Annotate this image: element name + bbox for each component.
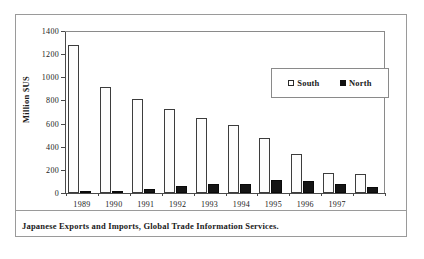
bar-north-1996 [303,181,314,193]
x-tick-mark [289,193,290,196]
x-tick-label-1994: 1994 [233,200,250,209]
y-tick-mark [61,77,65,78]
x-tick-label-1989: 1989 [73,200,90,209]
chart-legend: South North [271,68,389,98]
x-tick-mark [226,193,227,196]
bar-group-1996 [289,31,321,193]
bar-group-1995 [257,31,289,193]
bar-group-1989 [66,31,98,193]
bar-group-1993 [194,31,226,193]
x-tick-mark [321,193,322,196]
x-tick-mark [257,193,258,196]
x-tick-mark [130,193,131,196]
y-tick-label: 600 [46,119,59,128]
bar-group-1997 [321,31,353,193]
x-tick-label-1997: 1997 [329,200,346,209]
y-tick-label: 1400 [42,27,59,36]
y-tick-label: 200 [46,165,59,174]
x-tick-label-1992: 1992 [169,200,186,209]
bar-group-unlabeled [353,31,385,193]
x-tick-mark [353,193,354,196]
figure-caption: Japanese Exports and Imports, Global Tra… [22,221,279,231]
x-tick-label-1990: 1990 [105,200,122,209]
y-tick-mark [61,193,65,194]
bar-north-1992 [176,186,187,193]
bar-north-1997 [335,184,346,193]
bar-north-1995 [271,180,282,193]
x-tick-label-1996: 1996 [297,200,314,209]
x-tick-label-1995: 1995 [265,200,282,209]
y-axis-title: Million $US [21,76,31,123]
bar-south-1991 [132,99,143,193]
x-axis-ticks: 198919901991199219931994199519961997 [66,193,385,205]
bar-south-1989 [68,45,79,193]
y-tick-mark [61,124,65,125]
bar-south-1997 [323,173,334,193]
y-tick-label: 800 [46,96,59,105]
bar-south-1990 [100,87,111,193]
y-tick-mark [61,170,65,171]
y-tick-mark [61,100,65,101]
y-tick-label: 0 [55,189,59,198]
x-tick-mark [194,193,195,196]
bar-group-1992 [162,31,194,193]
bar-group-1991 [130,31,162,193]
bar-group-1990 [98,31,130,193]
y-tick-mark [61,147,65,148]
bar-south-1994 [228,125,239,193]
legend-entry-north: North [340,78,372,88]
x-tick-label-1991: 1991 [137,200,154,209]
bar-south-1996 [291,154,302,193]
y-tick-mark [61,54,65,55]
legend-label-south: South [297,78,319,88]
legend-swatch-north-icon [340,80,346,86]
bar-south-1993 [196,118,207,193]
chart-plot-area: 0200400600800100012001400 19891990199119… [65,31,385,209]
x-tick-mark [66,193,67,196]
bar-south-1995 [259,138,270,193]
y-tick-label: 1200 [42,50,59,59]
bar-group-1994 [226,31,258,193]
caption-divider [16,210,406,211]
bar-south-1992 [164,109,175,193]
bar-north-1994 [240,184,251,193]
y-tick-label: 400 [46,142,59,151]
bar-north-1993 [208,184,219,193]
x-tick-mark [98,193,99,196]
figure-frame: 0200400600800100012001400 19891990199119… [15,14,407,237]
x-tick-label-1993: 1993 [201,200,218,209]
bar-south-unlabeled [355,174,366,193]
x-tick-mark [162,193,163,196]
legend-label-north: North [349,78,372,88]
bars-layer [66,31,385,193]
legend-entry-south: South [288,78,319,88]
y-tick-mark [61,31,65,32]
x-tick-mark [385,193,386,196]
legend-swatch-south-icon [288,80,294,86]
y-tick-label: 1000 [42,73,59,82]
